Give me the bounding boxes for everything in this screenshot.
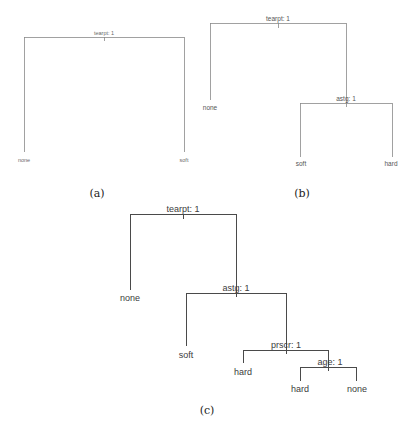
panel-a-leaf-soft: soft [180,157,189,163]
panel-b-caption: (b) [294,187,310,200]
panel-c-leaf-hard-2: hard [291,384,309,394]
decision-tree-figure: tearpt: 1 none soft (a) tearpt: 1 none a… [0,0,410,434]
panel-b-leaf-none: none [203,104,218,111]
panel-c-prscr-label: prscr: 1 [271,340,301,350]
panel-c-root-label: tearpt: 1 [166,204,199,214]
panel-c-astg-label: astg: 1 [222,283,249,293]
panel-b-leaf-hard: hard [384,160,397,167]
panel-a-tree: tearpt: 1 none soft (a) [18,30,189,200]
panel-b-root-label: tearpt: 1 [266,15,290,23]
panel-c-caption: (c) [200,404,215,417]
panel-c-age-label: age: 1 [317,357,342,367]
panel-c-tree: tearpt: 1 none astg: 1 soft prscr: 1 har… [120,204,367,417]
panel-b-tree: tearpt: 1 none astg: 1 soft hard (b) [203,15,398,200]
panel-b-leaf-soft: soft [296,160,307,167]
panel-a-caption: (a) [89,187,104,200]
panel-c-leaf-none-2: none [347,384,367,394]
panel-a-leaf-none: none [18,157,30,163]
panel-c-leaf-none-1: none [120,293,140,303]
panel-a-root-label: tearpt: 1 [94,30,114,36]
panel-c-leaf-hard-1: hard [234,367,252,377]
panel-c-leaf-soft: soft [179,350,194,360]
panel-b-astg-label: astg: 1 [336,95,356,103]
